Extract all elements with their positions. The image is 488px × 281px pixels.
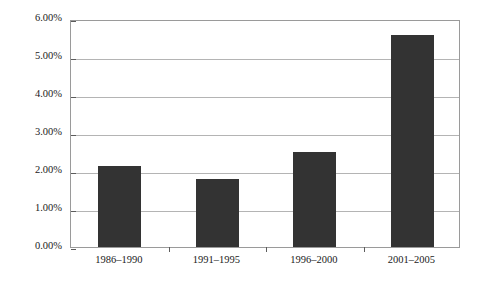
y-tick-mark: [71, 59, 76, 60]
y-tick-label: 0.00%: [35, 241, 62, 252]
y-tick-mark: [71, 211, 76, 212]
y-tick-label: 2.00%: [35, 165, 62, 176]
y-tick-label: 1.00%: [35, 203, 62, 214]
y-tick-mark: [71, 135, 76, 136]
x-tick-mark: [266, 247, 267, 252]
bar-chart: 0.00%1.00%2.00%3.00%4.00%5.00%6.00% 1986…: [0, 0, 488, 281]
y-tick-label: 5.00%: [35, 51, 62, 62]
y-tick-label: 6.00%: [35, 13, 62, 24]
bar: [196, 179, 239, 247]
x-axis-label: 1996–2000: [265, 254, 363, 266]
y-tick-mark: [71, 97, 76, 98]
y-tick-label: 4.00%: [35, 89, 62, 100]
bar: [293, 152, 336, 247]
y-tick-label: 3.00%: [35, 127, 62, 138]
x-axis-label: 1986–1990: [70, 254, 168, 266]
bar: [391, 35, 434, 247]
y-tick-mark: [71, 173, 76, 174]
x-tick-mark: [169, 247, 170, 252]
plot-area: 0.00%1.00%2.00%3.00%4.00%5.00%6.00%: [70, 20, 460, 248]
x-axis-label: 1991–1995: [168, 254, 266, 266]
bar: [98, 166, 141, 247]
x-tick-mark: [364, 247, 365, 252]
x-axis-label: 2001–2005: [363, 254, 461, 266]
y-tick-mark: [71, 249, 76, 250]
y-tick-mark: [71, 21, 76, 22]
